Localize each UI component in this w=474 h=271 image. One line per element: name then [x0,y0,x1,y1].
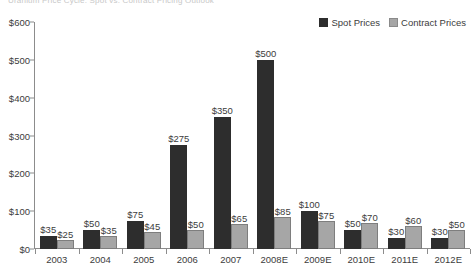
bar-spot: $500 [257,60,274,249]
y-axis-tick-mark [30,59,34,60]
bar-value-label: $75 [127,209,143,220]
y-axis-tick-label: $400 [9,92,30,103]
bar-value-label: $30 [388,226,404,237]
plot-area: $0$100$200$300$400$500$600 $35$25$50$35$… [34,22,470,249]
bar-value-label: $350 [212,105,233,116]
x-axis-category-label: 2008E [261,254,288,265]
bar-spot: $30 [431,238,448,249]
x-axis-tick-mark [296,249,297,254]
bar-value-label: $35 [40,224,56,235]
bar-value-label: $35 [101,225,117,236]
bar-group: $35$25 [40,22,74,249]
bar-contract: $60 [405,226,422,249]
x-axis-category-label: 2009E [304,254,331,265]
bar-spot: $30 [388,238,405,249]
bar-value-label: $50 [84,218,100,229]
x-axis-category-label: 2004 [90,254,111,265]
x-axis-tick-mark [166,249,167,254]
bar-group: $500$85 [257,22,291,249]
x-axis-category-label: 2011E [391,254,418,265]
bar-contract: $50 [187,230,204,249]
x-axis-tick-mark [35,249,36,254]
bar-value-label: $275 [168,133,189,144]
y-axis-tick-label: $500 [9,54,30,65]
bar-value-label: $75 [318,210,334,221]
x-axis-category-label: 2007 [220,254,241,265]
y-axis-tick-mark [30,173,34,174]
bar-group: $30$50 [431,22,465,249]
x-axis-tick-mark [383,249,384,254]
bar-contract: $70 [361,223,378,249]
y-axis-tick-label: $100 [9,206,30,217]
x-axis-tick-mark [427,249,428,254]
bar-value-label: $25 [57,229,73,240]
y-axis-tick-label: $0 [19,244,30,255]
x-axis-tick-mark [209,249,210,254]
bar-value-label: $50 [449,219,465,230]
x-axis-tick-mark [79,249,80,254]
bar-group: $100$75 [301,22,335,249]
bar-contract: $85 [274,217,291,249]
y-axis-tick-mark [30,22,34,23]
x-axis-category-label: 2003 [46,254,67,265]
x-axis-category-label: 2012E [435,254,462,265]
x-axis-category-label: 2010E [348,254,375,265]
bar-contract: $50 [448,230,465,249]
y-axis-tick-mark [30,249,34,250]
bar-value-label: $65 [231,213,247,224]
bar-value-label: $500 [255,48,276,59]
y-axis-tick-label: $600 [9,17,30,28]
bar-group: $275$50 [170,22,204,249]
bar-spot: $100 [301,211,318,249]
bar-value-label: $50 [345,218,361,229]
y-axis-tick-mark [30,97,34,98]
bar-value-label: $45 [144,221,160,232]
bar-value-label: $30 [432,226,448,237]
bar-contract: $65 [231,224,248,249]
x-axis-category-label: 2006 [177,254,198,265]
x-axis-labels: 200320042005200620072008E2009E2010E2011E… [34,252,470,268]
y-axis-tick-label: $200 [9,168,30,179]
bar-value-label: $85 [275,206,291,217]
bar-series-container: $35$25$50$35$75$45$275$50$350$65$500$85$… [35,22,470,249]
x-axis-tick-mark [122,249,123,254]
bar-group: $75$45 [127,22,161,249]
bar-value-label: $100 [299,199,320,210]
bar-spot: $75 [127,221,144,249]
bar-spot: $50 [83,230,100,249]
bar-spot: $35 [40,236,57,249]
x-axis-tick-mark [470,249,471,254]
bar-contract: $25 [57,240,74,249]
x-axis-category-label: 2005 [133,254,154,265]
y-axis-tick-mark [30,211,34,212]
bar-group: $50$70 [344,22,378,249]
bar-value-label: $70 [362,212,378,223]
x-axis-tick-mark [253,249,254,254]
bar-contract: $75 [318,221,335,249]
bar-value-label: $60 [405,215,421,226]
bar-value-label: $50 [188,219,204,230]
clipped-chart-title: Uranium Price Cycle: Spot vs. Contract P… [8,0,388,5]
y-axis-tick-mark [30,135,34,136]
bar-contract: $35 [100,236,117,249]
bar-spot: $350 [214,117,231,249]
bar-contract: $45 [144,232,161,249]
bar-group: $50$35 [83,22,117,249]
bar-spot: $50 [344,230,361,249]
bar-group: $30$60 [388,22,422,249]
bar-spot: $275 [170,145,187,249]
x-axis-tick-mark [340,249,341,254]
bar-group: $350$65 [214,22,248,249]
y-axis-tick-label: $300 [9,130,30,141]
